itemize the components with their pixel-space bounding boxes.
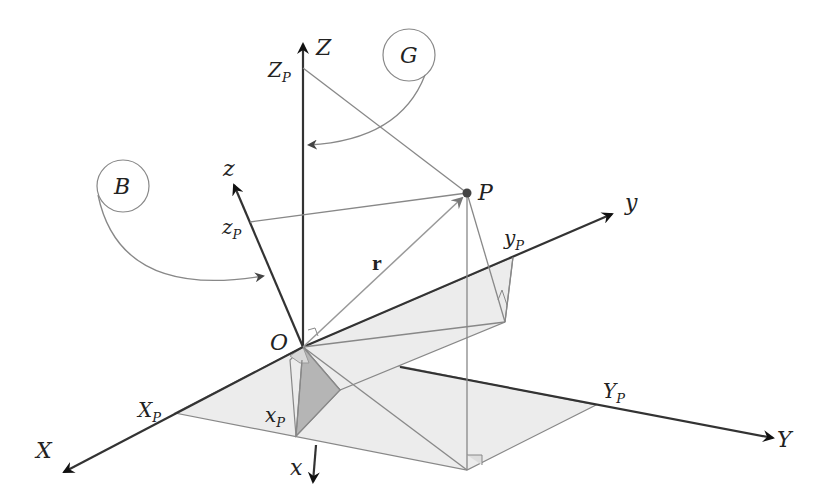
z-axis — [234, 185, 303, 347]
label-r: r — [372, 250, 382, 275]
label-Y: Y — [777, 427, 794, 452]
label-X-P: XP — [136, 398, 161, 425]
label-Z-P: ZP — [267, 58, 291, 85]
label-z-P: zP — [221, 215, 242, 242]
label-O: O — [270, 330, 288, 355]
label-P: P — [477, 180, 494, 205]
label-y: y — [624, 190, 638, 215]
x-axis — [313, 445, 316, 482]
label-z: z — [222, 156, 235, 181]
label-B: B — [113, 174, 130, 199]
label-y-P: yP — [503, 226, 524, 253]
point-P — [463, 189, 472, 198]
label-G: G — [400, 43, 418, 68]
label-X: X — [34, 438, 53, 463]
proj-zP-to-P — [250, 193, 467, 222]
label-x: x — [290, 455, 303, 480]
label-Z: Z — [315, 35, 332, 60]
proj-ZP-to-P — [303, 68, 467, 193]
label-Y-P: YP — [603, 379, 625, 406]
coordinate-frames-diagram: Z ZP G B z zP P y yP r O XP xP YP X x Y — [0, 0, 820, 501]
